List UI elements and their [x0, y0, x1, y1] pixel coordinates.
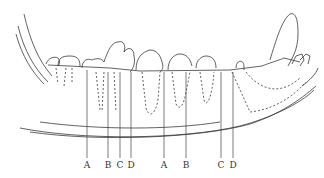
tooth-roots — [56, 68, 306, 114]
section-label-b2: B — [183, 161, 190, 170]
section-label-c2: C — [218, 161, 225, 170]
section-label-d2: D — [229, 161, 236, 170]
mandible-diagram — [0, 0, 324, 178]
section-label-a2: A — [161, 161, 168, 170]
jaw-lower-border — [20, 68, 318, 138]
section-label-b1: B — [105, 161, 112, 170]
section-label-a1: A — [84, 161, 91, 170]
section-lines — [87, 70, 233, 158]
ramus-curves — [16, 14, 52, 84]
section-label-d1: D — [127, 161, 134, 170]
section-label-c1: C — [117, 161, 124, 170]
